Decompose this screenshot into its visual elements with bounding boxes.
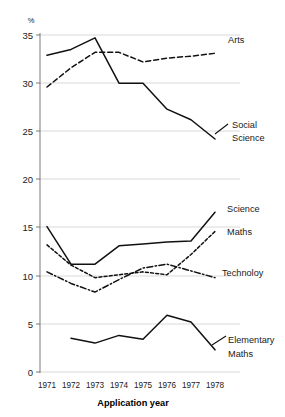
y-tick-label-30: 30: [22, 78, 33, 89]
series-label-maths: Maths: [227, 227, 252, 237]
series-label-social-science: Science: [232, 133, 265, 143]
x-tick-label-1973: 1973: [86, 381, 105, 390]
x-tick-label-1978: 1978: [206, 381, 225, 390]
y-tick-label-10: 10: [22, 271, 33, 282]
series-label-social: Social: [232, 120, 257, 130]
series-label-technology: Technoloy: [222, 268, 264, 278]
series-label-science: Science: [227, 204, 260, 214]
x-tick-label-1974: 1974: [110, 381, 129, 390]
x-tick-label-1975: 1975: [134, 381, 153, 390]
y-axis-unit-label: %: [28, 16, 35, 25]
chart-svg: % 35 30 25 20 15 10 5 0 1971 1972 1973 1…: [0, 0, 285, 417]
x-tick-label-1976: 1976: [158, 381, 177, 390]
y-tick-label-15: 15: [22, 222, 33, 233]
x-axis-title: Application year: [97, 398, 169, 408]
y-tick-label-25: 25: [22, 126, 33, 137]
series-label-arts: Arts: [228, 35, 245, 45]
series-label-elementary-maths: Maths: [228, 349, 253, 359]
y-tick-label-0: 0: [28, 367, 33, 378]
line-chart: % 35 30 25 20 15 10 5 0 1971 1972 1973 1…: [0, 0, 285, 417]
x-tick-label-1971: 1971: [38, 381, 57, 390]
y-tick-label-5: 5: [28, 319, 33, 330]
series-label-elementary: Elementary: [228, 335, 275, 345]
y-tick-label-20: 20: [22, 174, 33, 185]
x-tick-label-1977: 1977: [182, 381, 201, 390]
x-tick-label-1972: 1972: [62, 381, 81, 390]
y-tick-label-35: 35: [22, 30, 33, 41]
